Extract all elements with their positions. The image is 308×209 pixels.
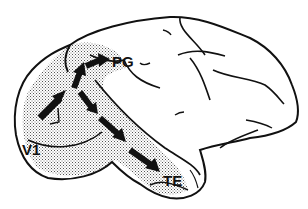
sulcus-temporal-small — [175, 112, 184, 115]
label-te: TE — [163, 173, 182, 188]
arcuate — [180, 17, 205, 55]
brain-diagram: PG V1 TE — [0, 0, 308, 209]
principal-sulcus — [213, 70, 284, 104]
sulcus-3 — [190, 58, 210, 100]
sulcus-frontal-lower — [246, 120, 272, 128]
pg-tick — [140, 63, 150, 65]
sulcus-small — [163, 30, 171, 35]
brain-illustration — [0, 0, 308, 209]
sulcus-temporal-small-2 — [190, 170, 198, 188]
lateral-fissure — [220, 130, 258, 148]
sulcus-2 — [178, 51, 225, 56]
label-v1: V1 — [22, 142, 40, 157]
label-pg: PG — [112, 54, 134, 69]
